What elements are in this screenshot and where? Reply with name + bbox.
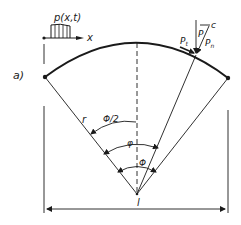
curved-arch-diagram: p(x,t) x a) r Φ/2 φ Φ l c P Pt Pn xyxy=(0,0,241,225)
distributed-load: p(x,t) x xyxy=(42,12,93,43)
tangential-force-label: Pt xyxy=(180,36,188,47)
arch-arc xyxy=(45,43,228,78)
normal-force-label: Pn xyxy=(205,38,214,49)
origin-dot xyxy=(42,36,45,39)
load-label: p(x,t) xyxy=(53,12,81,23)
panel-label: a) xyxy=(13,69,24,82)
radius-label: r xyxy=(82,114,87,125)
phi-small-label: φ xyxy=(127,138,133,148)
span-label: l xyxy=(137,197,140,208)
offset-label: c xyxy=(211,20,216,30)
right-radius-line xyxy=(137,78,228,194)
half-angle-label: Φ/2 xyxy=(103,114,119,124)
phi-label: Φ xyxy=(139,158,146,168)
force-label: P xyxy=(198,29,204,39)
left-radius-line xyxy=(45,77,137,194)
load-radius-line xyxy=(137,55,196,194)
center-point xyxy=(136,193,139,196)
x-axis-arrow-icon xyxy=(76,36,84,40)
force-system: c P Pt Pn xyxy=(180,20,216,53)
x-axis-label: x xyxy=(86,32,93,43)
